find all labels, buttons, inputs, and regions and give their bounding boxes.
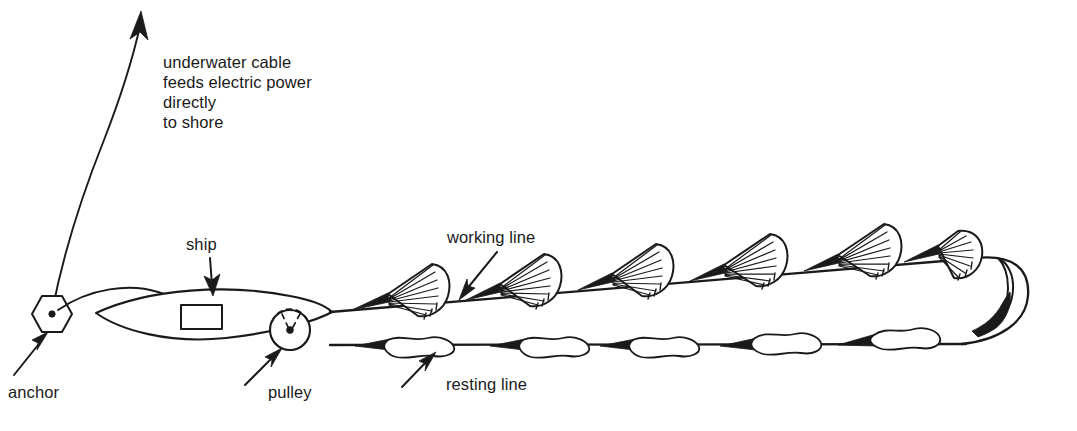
parachute-collapsed-1-body — [384, 337, 454, 358]
pulley-hub — [287, 327, 294, 334]
parachute-transition — [972, 258, 1013, 337]
technical-diagram: underwater cable feeds electric power di… — [0, 0, 1077, 431]
resting-line-parachutes — [355, 328, 940, 358]
pulley-group — [270, 309, 310, 350]
parachute-open-5-tether — [804, 254, 839, 271]
cable-label-line-4: to shore — [163, 113, 223, 131]
anchor-group — [32, 296, 72, 332]
cable-label-line-3: directly — [163, 93, 217, 111]
anchor-attachment-point — [49, 311, 55, 317]
anchor-leader-arrowhead — [32, 332, 48, 350]
pulley-leader-line — [245, 356, 274, 385]
parachute-open-3-tether — [578, 273, 613, 290]
diagram-canvas: underwater cable feeds electric power di… — [0, 0, 1077, 431]
parachute-open-4-tether — [690, 264, 725, 281]
parachute-collapsed-5-body — [870, 328, 940, 350]
parachute-collapsed-5 — [838, 328, 940, 350]
underwater-cable-arrowhead — [130, 11, 148, 40]
anchor-label: anchor — [8, 383, 59, 401]
ship-deckhouse — [181, 305, 222, 329]
pulley-leader — [245, 348, 282, 385]
anchor-leader — [14, 332, 48, 375]
pulley-label: pulley — [268, 383, 312, 401]
parachute-open-2 — [466, 254, 561, 309]
working-line-leader-line — [466, 252, 497, 290]
parachute-collapsed-1 — [355, 337, 454, 358]
working-line-label: working line — [446, 228, 535, 246]
parachute-collapsed-3 — [600, 337, 699, 358]
cable-label-line-2: feeds electric power — [163, 73, 312, 91]
parachute-collapsed-4-body — [751, 333, 821, 355]
underwater-cable-path — [52, 26, 140, 312]
parachute-open-6 — [904, 231, 982, 280]
underwater-cable-group — [52, 11, 148, 312]
resting-line-label: resting line — [446, 375, 527, 393]
underwater-cable-label: underwater cable feeds electric power di… — [163, 53, 312, 131]
resting-line-leader-line — [402, 360, 428, 387]
parachute-collapsed-4 — [720, 333, 821, 355]
pulley-leader-arrowhead — [265, 348, 282, 367]
ship-label: ship — [186, 235, 217, 253]
parachute-open-6-tether — [904, 245, 939, 262]
parachute-open-1 — [352, 264, 449, 319]
parachute-collapsed-2-body — [519, 337, 589, 358]
parachute-collapsed-3-body — [629, 337, 699, 358]
parachute-collapsed-2 — [490, 337, 589, 358]
cable-label-line-1: underwater cable — [163, 53, 291, 71]
